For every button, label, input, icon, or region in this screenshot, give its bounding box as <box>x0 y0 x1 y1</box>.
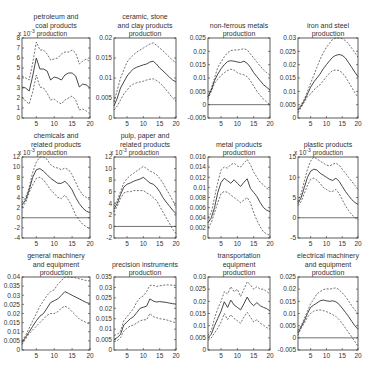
y-tick-label: 0.01 <box>193 322 206 329</box>
lower-band-line <box>298 178 358 220</box>
x-tick-label: 20 <box>354 120 362 127</box>
y-tick-label: 0.02 <box>283 285 296 292</box>
y-tick-label: -2 <box>106 234 112 241</box>
lower-band-line <box>114 191 176 234</box>
y-tick-label: 0.025 <box>96 294 113 301</box>
subplot-title: precision instruments <box>112 261 179 269</box>
x-tick-label: 20 <box>86 352 94 359</box>
x-tick-label: 5 <box>219 120 223 127</box>
y-tick-label: 0.015 <box>4 319 21 326</box>
x-tick-label: 15 <box>250 352 258 359</box>
subplot-title: production <box>223 269 256 277</box>
y-tick-label: 0.025 <box>190 34 207 41</box>
y-tick-label: 0 <box>202 234 206 241</box>
x-tick-label: 10 <box>51 352 59 359</box>
x-tick-label: 15 <box>68 352 76 359</box>
y-tick-label: 8 <box>108 176 112 183</box>
axes-box <box>22 277 90 350</box>
y-tick-label: 0 <box>16 114 20 121</box>
y-tick-label: 0.005 <box>190 334 207 341</box>
subplot-8: plastic productsx 10-3production-5051015… <box>289 141 362 248</box>
y-tick-label: 5 <box>16 64 20 71</box>
x-tick-label: 10 <box>323 240 331 247</box>
y-tick-label: 5 <box>292 194 296 201</box>
lower-band-line <box>208 191 270 235</box>
x-tick-label: 20 <box>354 352 362 359</box>
upper-band-line <box>208 160 270 218</box>
y-tick-label: 4 <box>16 194 20 201</box>
subplot-1: petroleum andcoal productsx 10-3producti… <box>16 13 94 127</box>
subplot-title: related products <box>31 141 82 149</box>
x-tick-label: 15 <box>156 240 164 247</box>
estimate-line <box>22 292 90 343</box>
y-tick-label: 0.015 <box>96 54 113 61</box>
subplot-7: metal productsproduction00.0020.0040.006… <box>190 141 274 248</box>
upper-band-line <box>298 38 358 110</box>
x-tick-label: 5 <box>35 352 39 359</box>
subplot-11: transportationequipmentproduction00.0050… <box>190 252 274 359</box>
lower-band-line <box>22 75 90 114</box>
y-tick-label: 0.01 <box>283 88 296 95</box>
estimate-line <box>208 178 270 223</box>
y-tick-label: 0.02 <box>99 34 112 41</box>
subplot-title: production <box>312 269 345 277</box>
x-tick-label: 5 <box>219 352 223 359</box>
subplot-title: non-ferrous metals <box>210 22 269 29</box>
subplot-title: pulp, paper and <box>121 132 170 140</box>
y-tick-label: 0.01 <box>99 325 112 332</box>
y-tick-label: 6 <box>108 188 112 195</box>
scale-note: x 10-3production <box>18 147 67 157</box>
lower-band-line <box>22 177 90 229</box>
y-tick-label: 0.025 <box>190 285 207 292</box>
y-tick-label: 0 <box>108 346 112 353</box>
upper-band-line <box>114 43 176 102</box>
estimate-line <box>208 61 270 97</box>
y-tick-label: 0.008 <box>190 194 207 201</box>
subplot-title: production <box>129 30 162 38</box>
x-tick-label: 5 <box>35 120 39 127</box>
subplot-title: metal products <box>216 141 262 149</box>
x-tick-label: 5 <box>309 240 313 247</box>
y-tick-label: 0 <box>108 223 112 230</box>
estimate-line <box>208 297 270 338</box>
y-tick-label: 0.03 <box>7 292 20 299</box>
x-tick-label: 10 <box>234 240 242 247</box>
y-tick-label: 12 <box>13 153 21 160</box>
subplot-9: general machineryand equipmentproduction… <box>4 252 94 359</box>
x-tick-label: 15 <box>339 240 347 247</box>
x-tick-label: 10 <box>51 240 59 247</box>
upper-band-line <box>114 285 176 336</box>
subplot-title: production <box>312 30 345 38</box>
y-tick-label: 0.002 <box>190 224 207 231</box>
y-tick-label: 0.005 <box>4 337 21 344</box>
y-tick-label: 0.03 <box>193 273 206 280</box>
upper-band-line <box>114 166 176 208</box>
x-tick-label: 15 <box>68 120 76 127</box>
y-tick-label: 15 <box>289 153 297 160</box>
lower-band-line <box>208 312 270 340</box>
x-tick-label: 10 <box>51 120 59 127</box>
upper-band-line <box>22 277 90 341</box>
subplot-2: ceramic, stoneand clay productsproductio… <box>96 13 180 127</box>
axes-box <box>298 38 358 118</box>
y-tick-label: 2 <box>108 211 112 218</box>
y-tick-label: -0.005 <box>278 346 297 353</box>
subplot-title: general machinery <box>27 252 85 260</box>
y-tick-label: 0.005 <box>96 94 113 101</box>
y-tick-label: 1 <box>16 104 20 111</box>
y-tick-label: 0.02 <box>283 61 296 68</box>
y-tick-label: 0.01 <box>99 74 112 81</box>
axes-box <box>22 157 90 238</box>
y-tick-label: 0.014 <box>190 163 207 170</box>
estimate-line <box>114 177 176 213</box>
y-tick-label: 0.006 <box>190 204 207 211</box>
y-tick-label: -0.005 <box>188 114 207 121</box>
x-tick-label: 5 <box>309 120 313 127</box>
impulse-response-grid: petroleum andcoal productsx 10-3producti… <box>0 0 379 373</box>
x-tick-label: 5 <box>35 240 39 247</box>
x-tick-label: 5 <box>125 352 129 359</box>
y-tick-label: 0.012 <box>190 174 207 181</box>
lower-band-line <box>22 306 90 344</box>
x-tick-label: 10 <box>323 120 331 127</box>
x-tick-label: 10 <box>140 120 148 127</box>
